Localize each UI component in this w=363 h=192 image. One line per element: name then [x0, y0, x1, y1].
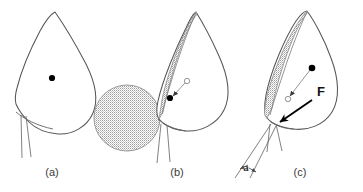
panel-c-caption: (c)	[294, 166, 307, 178]
panel-b-filled-dot	[167, 95, 173, 101]
panel-b-sphere	[94, 85, 160, 151]
panel-c-filled-dot	[309, 65, 316, 72]
panel-b-open-dot	[184, 78, 189, 83]
panel-a-filled-dot	[49, 75, 55, 81]
panel-b-caption: (b)	[170, 166, 183, 178]
figure-canvas: (a) (b)	[0, 0, 363, 192]
panel-a-caption: (a)	[45, 166, 58, 178]
panel-c-force-label: F	[317, 84, 325, 99]
panel-c-angle-label: a	[243, 161, 249, 173]
panel-c-open-dot	[285, 96, 290, 101]
